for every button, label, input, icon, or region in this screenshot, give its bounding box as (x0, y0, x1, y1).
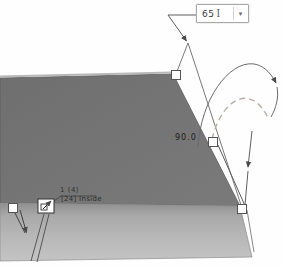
flange-drag-arrow[interactable] (248, 131, 252, 167)
vertex-handle-bottom-right[interactable] (238, 205, 247, 214)
text-cursor-icon: I (216, 8, 220, 20)
model-scene (0, 0, 283, 266)
angle-dimension-label[interactable]: 90.0 (175, 133, 197, 142)
dimension-leader-line (168, 15, 196, 41)
bend-note-line2: [24] Inside (61, 195, 102, 203)
dimension-input-box[interactable]: 65 I ▾ (196, 4, 249, 23)
dimension-value[interactable]: 65 (197, 9, 214, 19)
cad-viewport[interactable]: 65 I ▾ 90.0 1 (4) [24] Inside (0, 0, 283, 266)
rotation-arc-manipulator[interactable] (198, 64, 276, 147)
rotation-arc-tail (271, 87, 278, 117)
bend-edit-icon-button[interactable] (38, 199, 54, 213)
dropdown-arrow-icon[interactable]: ▾ (233, 7, 247, 20)
vertex-handle-bottom-left[interactable] (9, 204, 18, 213)
flange-drag-segment (245, 171, 248, 205)
bend-preview-dashed-arc (212, 98, 268, 139)
bend-note-line1: 1 (4) (60, 186, 79, 194)
vertex-handle-top[interactable] (172, 71, 181, 80)
flange-top-edge (176, 43, 188, 74)
vertex-handle-mid[interactable] (209, 138, 218, 147)
top-face[interactable] (0, 74, 240, 206)
